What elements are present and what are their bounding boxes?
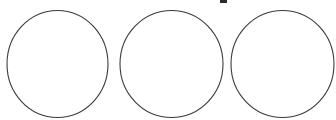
circles-figure (0, 0, 336, 120)
background-rect (0, 0, 336, 120)
image-canvas (0, 0, 336, 120)
clipped-top-mark-icon (220, 0, 227, 3)
